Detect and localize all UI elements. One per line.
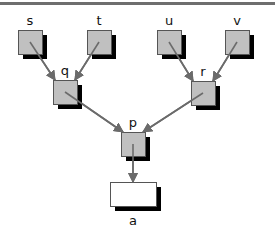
nodes: stuvqrpa xyxy=(19,13,255,228)
node-s: s xyxy=(19,13,48,59)
node-r: r xyxy=(192,64,221,110)
node-label: s xyxy=(27,13,34,28)
node-a: a xyxy=(111,183,162,229)
node-label: v xyxy=(233,13,241,28)
node-label: a xyxy=(129,213,137,228)
node-label: q xyxy=(61,63,69,78)
edge-overlay-q-p xyxy=(65,92,123,132)
node-p: p xyxy=(122,115,151,161)
node-q: q xyxy=(54,63,83,109)
node-label: p xyxy=(129,115,137,130)
edge-overlay-r-p xyxy=(143,93,203,132)
node-u: u xyxy=(158,13,187,59)
node-label: u xyxy=(165,13,173,28)
node-box xyxy=(192,82,216,106)
tree-diagram: stuvqrpa xyxy=(0,0,275,235)
node-v: v xyxy=(226,13,255,59)
node-label: r xyxy=(200,64,206,79)
node-label: t xyxy=(96,13,101,28)
node-box xyxy=(111,183,157,207)
